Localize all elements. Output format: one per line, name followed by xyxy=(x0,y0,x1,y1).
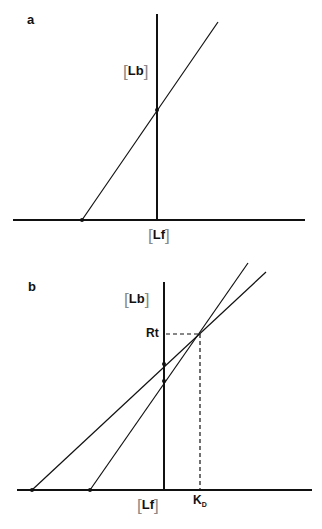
panel-b-kd-label: KD xyxy=(193,493,207,508)
lf-text: Lf xyxy=(153,227,165,242)
lf-text: Lf xyxy=(142,497,154,512)
panel-a-plot-line xyxy=(82,22,218,220)
bracket-close: ] xyxy=(145,290,150,309)
panel-a-y-axis-label: [Lb] xyxy=(123,62,148,82)
panel-b-plot-line-2 xyxy=(90,263,248,490)
bracket-close: ] xyxy=(165,226,170,245)
bracket-close: ] xyxy=(144,62,149,81)
panel-a-x-intercept-point xyxy=(80,218,84,222)
panel-a-graphics xyxy=(13,14,305,222)
panel-b-y-axis-label: [Lb] xyxy=(124,290,149,310)
d-subscript: D xyxy=(202,501,207,508)
panel-b-rt-label: Rt xyxy=(146,326,159,340)
panel-b-graphics xyxy=(17,263,312,492)
panel-b-label: b xyxy=(28,279,36,294)
panel-b-y-intercept-point-2 xyxy=(162,379,166,383)
panel-a-label: a xyxy=(27,12,34,27)
k-text: K xyxy=(193,493,202,507)
panel-b-y-intercept-point-1 xyxy=(162,362,166,366)
panel-b-x-intercept-point-1 xyxy=(30,488,34,492)
lb-text: Lb xyxy=(128,63,144,78)
panel-a-y-intercept-point xyxy=(155,108,159,112)
panel-b-x-intercept-point-2 xyxy=(88,488,92,492)
bracket-close: ] xyxy=(154,496,159,515)
panel-b-x-axis-label: [Lf] xyxy=(137,496,159,516)
panel-a-x-axis-label: [Lf] xyxy=(148,226,170,246)
diagram-canvas xyxy=(0,0,322,529)
lb-text: Lb xyxy=(129,291,145,306)
